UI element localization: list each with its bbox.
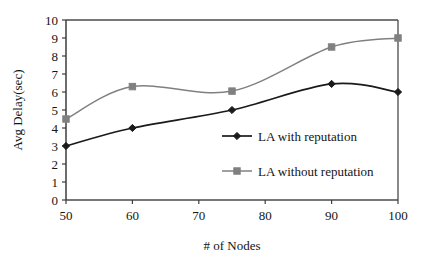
- y-tick-label: 9: [52, 31, 59, 46]
- legend-label: LA with reputation: [258, 129, 357, 144]
- legend-label: LA without reputation: [258, 164, 374, 179]
- x-tick-label: 70: [192, 208, 205, 223]
- x-tick-label: 60: [126, 208, 139, 223]
- chart-figure: 012345678910 5060708090100 Avg Delay(sec…: [0, 0, 425, 262]
- y-tick-label: 10: [45, 13, 58, 28]
- data-point-marker: [328, 44, 334, 50]
- data-point-marker: [229, 88, 235, 94]
- x-tick-label: 100: [388, 208, 408, 223]
- legend-marker-square-icon: [234, 168, 240, 174]
- y-tick-label: 2: [52, 157, 59, 172]
- x-tick-label: 90: [325, 208, 338, 223]
- line-chart: 012345678910 5060708090100 Avg Delay(sec…: [0, 0, 425, 262]
- y-tick-label: 6: [52, 85, 59, 100]
- x-axis-title: # of Nodes: [203, 238, 260, 253]
- data-point-marker: [63, 116, 69, 122]
- data-point-marker: [129, 83, 135, 89]
- data-point-marker: [395, 35, 401, 41]
- y-tick-label: 0: [52, 193, 59, 208]
- y-tick-label: 3: [52, 139, 59, 154]
- y-tick-label: 7: [52, 67, 59, 82]
- y-tick-label: 4: [52, 121, 59, 136]
- y-tick-label: 1: [52, 175, 59, 190]
- y-tick-label: 8: [52, 49, 59, 64]
- y-tick-label: 5: [52, 103, 59, 118]
- x-tick-label: 80: [259, 208, 272, 223]
- x-tick-label: 50: [60, 208, 73, 223]
- y-axis-title: Avg Delay(sec): [10, 70, 25, 151]
